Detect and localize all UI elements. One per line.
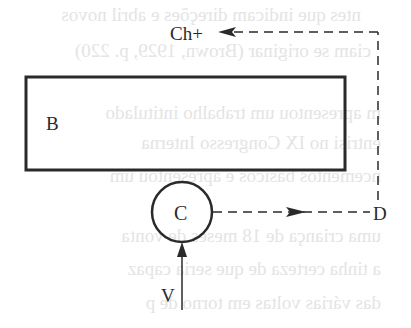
box-b: [26, 77, 345, 170]
label-c: C: [174, 203, 187, 223]
label-d: D: [373, 204, 387, 223]
diagram-canvas: ntes que indicam direções e abril novos …: [0, 0, 411, 328]
label-ch-plus: Ch+: [170, 24, 203, 43]
label-b: B: [46, 114, 59, 133]
arrow-up-icon: [177, 242, 187, 257]
diagram-shapes: [0, 0, 411, 328]
label-v: V: [161, 286, 175, 305]
arrow-left-icon: [218, 27, 236, 37]
